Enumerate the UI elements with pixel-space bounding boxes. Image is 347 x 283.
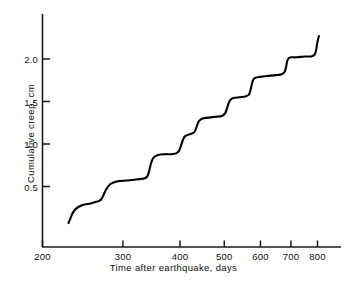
x-axis-tick-label: 400 — [172, 251, 188, 262]
x-axis-ticks — [43, 241, 318, 248]
x-axis-tick-label: 500 — [216, 251, 232, 262]
y-axis-ticks — [43, 59, 51, 187]
x-axis-tick-label: 800 — [309, 251, 325, 262]
x-axis-title: Time after earthquake, days — [0, 262, 347, 273]
chart-figure: 200300400500600700800 0.51.01.52.0 Time … — [0, 0, 347, 283]
y-axis-title: Cumulative creep, cm — [25, 54, 36, 214]
chart-plot-area — [0, 0, 347, 283]
x-axis-tick-label: 300 — [115, 251, 131, 262]
x-axis-tick-label: 600 — [252, 251, 268, 262]
x-axis-tick-label: 700 — [283, 251, 299, 262]
x-axis-tick-label: 200 — [34, 251, 50, 262]
creep-curve — [68, 36, 318, 223]
axis-lines — [42, 14, 341, 247]
